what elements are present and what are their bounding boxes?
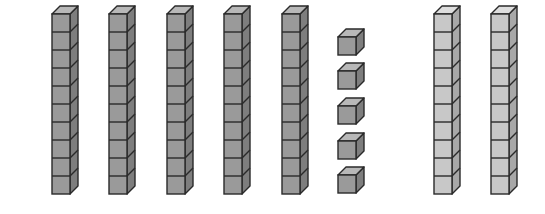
unit-cube: [338, 167, 364, 193]
unit-cube: [338, 63, 364, 89]
tens-rod: [52, 6, 78, 194]
tens-rod: [109, 6, 135, 194]
tens-rod: [434, 6, 460, 194]
tens-rod: [282, 6, 308, 194]
tens-rod: [224, 6, 250, 194]
unit-cube: [338, 29, 364, 55]
unit-cube: [338, 133, 364, 159]
tens-rod: [167, 6, 193, 194]
dark-tens-rods: [52, 6, 308, 194]
base-ten-blocks-diagram: [0, 0, 545, 214]
light-tens-rods: [434, 6, 517, 194]
unit-cubes: [338, 29, 364, 193]
tens-rod: [491, 6, 517, 194]
unit-cube: [338, 98, 364, 124]
